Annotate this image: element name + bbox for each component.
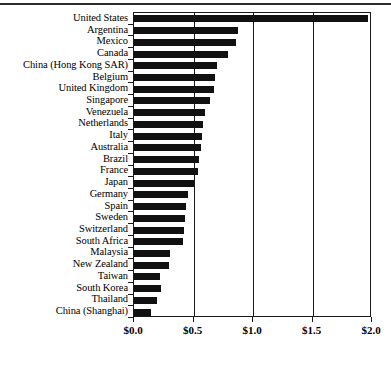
x-axis-tick-label: $0.0 <box>103 324 163 337</box>
category-label: Venezuela <box>0 106 128 117</box>
category-label: Argentina <box>0 24 128 35</box>
bar <box>134 144 201 151</box>
category-label: Singapore <box>0 94 128 105</box>
bar <box>134 51 228 58</box>
category-label: Spain <box>0 200 128 211</box>
category-label: Sweden <box>0 211 128 222</box>
plot-area <box>133 12 371 317</box>
bar <box>134 62 217 69</box>
bar <box>134 109 205 116</box>
x-axis-tick <box>133 317 134 322</box>
x-axis-tick-labels: $0.0$0.5$1.0$1.5$2.0 <box>0 324 391 342</box>
category-label: Brazil <box>0 153 128 164</box>
bar <box>134 156 199 163</box>
category-axis-labels: United StatesArgentinaMexicoCanadaChina … <box>0 12 128 317</box>
bar <box>134 238 183 245</box>
x-axis-ticks <box>133 317 371 322</box>
category-label: Germany <box>0 188 128 199</box>
bar <box>134 227 184 234</box>
x-axis-tick <box>371 317 372 322</box>
category-label: Malaysia <box>0 246 128 257</box>
bar <box>134 39 236 46</box>
category-label: Taiwan <box>0 270 128 281</box>
category-label: Switzerland <box>0 223 128 234</box>
category-label: New Zealand <box>0 258 128 269</box>
category-label: Japan <box>0 176 128 187</box>
category-label: Italy <box>0 129 128 140</box>
bar <box>134 309 151 316</box>
bar <box>134 203 186 210</box>
category-label: China (Hong Kong SAR) <box>0 59 128 70</box>
bar <box>134 273 160 280</box>
category-label: China (Shanghai) <box>0 305 128 316</box>
category-label: Australia <box>0 141 128 152</box>
x-axis-tick-label: $1.5 <box>282 324 342 337</box>
category-label: Mexico <box>0 35 128 46</box>
category-label: South Africa <box>0 235 128 246</box>
bar <box>134 27 238 34</box>
x-axis-tick-label: $0.5 <box>163 324 223 337</box>
category-label: Netherlands <box>0 117 128 128</box>
bar <box>134 285 161 292</box>
x-axis-tick-label: $1.0 <box>222 324 282 337</box>
horizontal-bar-chart: United StatesArgentinaMexicoCanadaChina … <box>0 0 391 369</box>
bar <box>134 250 170 257</box>
x-axis-tick <box>193 317 194 322</box>
x-axis-tick <box>312 317 313 322</box>
category-label: Belgium <box>0 71 128 82</box>
bar <box>134 86 214 93</box>
bar <box>134 121 203 128</box>
x-axis-tick-label: $2.0 <box>341 324 391 337</box>
category-label: United States <box>0 12 128 23</box>
bar <box>134 168 198 175</box>
x-axis-tick <box>252 317 253 322</box>
bar <box>134 97 210 104</box>
bar <box>134 215 185 222</box>
bar <box>134 133 202 140</box>
bar <box>134 15 368 22</box>
bar-series <box>134 13 370 316</box>
bar <box>134 74 215 81</box>
category-label: France <box>0 164 128 175</box>
bar <box>134 191 188 198</box>
category-label: United Kingdom <box>0 82 128 93</box>
bar <box>134 262 169 269</box>
bar <box>134 180 194 187</box>
category-label: South Korea <box>0 282 128 293</box>
bar <box>134 297 157 304</box>
category-label: Thailand <box>0 293 128 304</box>
category-label: Canada <box>0 47 128 58</box>
